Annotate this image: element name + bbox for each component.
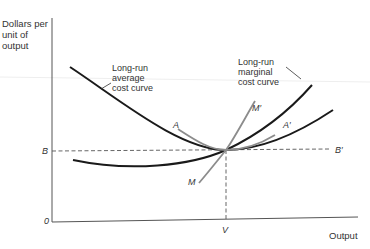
lrmc-leader-line — [286, 67, 301, 79]
scan-artifact-line — [0, 77, 370, 82]
x-axis — [52, 217, 358, 222]
label-b-prime: B′ — [335, 145, 343, 155]
label-a-prime: A′ — [283, 120, 291, 130]
diagram-canvas — [0, 0, 370, 249]
cost-curves-diagram: Dollars per unit of output Long-run aver… — [0, 0, 370, 249]
lrmc-label: Long-run marginal cost curve — [238, 57, 279, 87]
origin-label: 0 — [44, 216, 49, 226]
lrac-label: Long-run average cost curve — [112, 63, 153, 93]
label-m-prime: M′ — [252, 103, 261, 113]
label-v: V — [222, 225, 228, 235]
aa-prime-curve — [178, 129, 275, 150]
mm-prime-curve — [199, 101, 255, 183]
label-a: A — [173, 120, 179, 130]
lrac-leader-line — [101, 83, 111, 89]
label-b: B — [42, 146, 48, 156]
x-axis-label: Output — [329, 231, 358, 241]
lrmc-curve — [73, 85, 312, 166]
b-dashed-line — [52, 149, 331, 151]
y-axis-label: Dollars per unit of output — [2, 18, 48, 51]
label-m: M — [188, 177, 196, 187]
